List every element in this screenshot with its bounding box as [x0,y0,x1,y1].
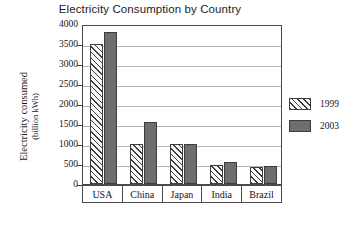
bar-usa-2003 [104,32,117,184]
x-axis-label-japan: Japan [163,186,203,202]
y-axis-tick-label: 3500 [42,40,78,49]
x-axis-label-usa: USA [83,186,123,202]
x-axis-category-band: USAChinaJapanIndiaBrazil [82,185,282,203]
x-axis-label-india: India [202,186,242,202]
bar-india-1999 [210,165,223,184]
y-axis-title-main: Electricity consumed [18,72,29,161]
legend-label-2003: 2003 [320,121,339,131]
y-axis-tick-label: 3000 [42,60,78,69]
y-axis-tick-label: 2500 [42,80,78,89]
bar-india-2003 [224,162,237,184]
plot-area [82,25,282,185]
bar-china-2003 [144,122,157,184]
bar-usa-1999 [90,44,103,184]
y-axis-tick-label: 1500 [42,120,78,129]
legend-swatch-1999 [289,98,311,110]
y-axis-tick-label: 2000 [42,100,78,109]
y-axis-tick-label: 500 [42,160,78,169]
bar-china-1999 [130,144,143,184]
x-axis-label-brazil: Brazil [242,186,281,202]
y-axis-title: Electricity consumed (billion kWh) [18,37,41,197]
chart-title: Electricity Consumption by Country [0,3,300,15]
x-axis-label-china: China [123,186,163,202]
bar-japan-2003 [184,144,197,184]
legend-swatch-2003 [289,120,311,132]
legend-item-1999[interactable]: 1999 [289,93,339,115]
y-axis-tick-label: 1000 [42,140,78,149]
y-axis-tick-label: 0 [42,180,78,189]
y-axis-title-unit: (billion kWh) [30,37,41,197]
bar-brazil-1999 [250,167,263,184]
legend-label-1999: 1999 [320,99,339,109]
y-axis-tick-label: 4000 [42,20,78,29]
legend: 19992003 [289,93,339,137]
bar-brazil-2003 [264,166,277,184]
bar-japan-1999 [170,144,183,184]
legend-item-2003[interactable]: 2003 [289,115,339,137]
